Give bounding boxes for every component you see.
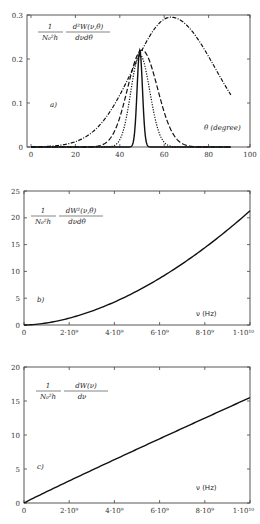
y-tick-label: 5	[16, 295, 20, 303]
panel-c-spectral: 0510152002·10⁹4·10⁹6·10⁹8·10⁹1·10¹⁰1N₀²h…	[0, 350, 260, 524]
x-tick-label: 0	[22, 329, 26, 337]
y-axis-formula: 1N₀²hdW(ν)dν	[36, 382, 108, 401]
y-tick-label: 0	[16, 322, 20, 330]
x-tick-label: 80	[204, 151, 213, 159]
panel-label: c)	[37, 463, 44, 471]
y-tick-label: 25	[11, 188, 20, 196]
y-tick-label: 10	[11, 432, 20, 440]
x-tick-label: 2·10⁹	[60, 329, 79, 337]
x-tick-label: 8·10⁹	[196, 507, 215, 515]
x-tick-label: 100	[243, 151, 256, 159]
x-tick-label: 4·10⁹	[105, 329, 124, 337]
svg-text:N₀²h: N₀²h	[41, 34, 58, 42]
x-tick-label: 1·10¹⁰	[233, 507, 254, 515]
svg-text:1: 1	[41, 207, 45, 215]
y-tick-label: 15	[11, 398, 20, 406]
x-axis-label: ν (Hz)	[196, 484, 217, 492]
x-tick-label: 0	[22, 507, 26, 515]
x-tick-label: 1·10¹⁰	[233, 329, 254, 337]
x-tick-label: 6·10⁹	[150, 507, 169, 515]
svg-text:dνdθ: dνdθ	[68, 218, 86, 226]
svg-text:N₀²h: N₀²h	[39, 393, 56, 401]
x-axis-label: θ (degree)	[204, 124, 241, 132]
svg-text:dW(ν): dW(ν)	[75, 382, 97, 390]
x-tick-label: 6·10⁹	[150, 329, 169, 337]
y-tick-label: 20	[11, 214, 20, 222]
y-axis-formula: 1N₀²hdW²(ν,θ)dνdθ	[31, 207, 103, 226]
chart-c: 0510152002·10⁹4·10⁹6·10⁹8·10⁹1·10¹⁰1N₀²h…	[0, 350, 260, 524]
x-tick-label: 60	[160, 151, 169, 159]
x-tick-label: 8·10⁹	[196, 329, 215, 337]
series-dashed-line	[31, 50, 231, 147]
panel-label: a)	[50, 101, 57, 109]
series-solid-line	[24, 211, 250, 325]
svg-text:1: 1	[46, 382, 50, 390]
x-tick-label: 0	[29, 151, 33, 159]
y-axis-formula: 1N₀²hd²W(ν,θ)dνdθ	[38, 23, 110, 42]
panel-label: b)	[37, 296, 44, 304]
y-tick-label: 0	[16, 500, 20, 508]
svg-text:N₀²h: N₀²h	[34, 218, 51, 226]
series-dotted-line	[31, 55, 231, 147]
panel-a-angular-distribution: 00.10.20.30204060801001N₀²hd²W(ν,θ)dνdθa…	[0, 0, 260, 170]
x-axis-label: ν (Hz)	[196, 310, 217, 318]
y-tick-label: 15	[11, 241, 20, 249]
plot-frame	[24, 367, 250, 503]
svg-text:dν: dν	[78, 393, 87, 401]
x-tick-label: 2·10⁹	[60, 507, 79, 515]
y-tick-label: 10	[11, 268, 20, 276]
plot-frame	[24, 191, 250, 325]
y-tick-label: 0	[19, 144, 23, 152]
svg-text:dW²(ν,θ): dW²(ν,θ)	[66, 207, 97, 215]
chart-b: 051015202502·10⁹4·10⁹6·10⁹8·10⁹1·10¹⁰1N₀…	[0, 170, 260, 350]
y-tick-label: 0.2	[12, 56, 23, 64]
series-solid-line	[31, 50, 231, 147]
svg-text:d²W(ν,θ): d²W(ν,θ)	[73, 23, 104, 31]
series-dashdot-line	[31, 17, 231, 147]
svg-text:1: 1	[48, 23, 52, 31]
y-tick-label: 0.1	[12, 100, 23, 108]
svg-text:dνdθ: dνdθ	[75, 34, 93, 42]
y-tick-label: 0.3	[12, 12, 23, 20]
panel-b-spectral-angular: 051015202502·10⁹4·10⁹6·10⁹8·10⁹1·10¹⁰1N₀…	[0, 170, 260, 350]
x-tick-label: 4·10⁹	[105, 507, 124, 515]
x-tick-label: 20	[71, 151, 80, 159]
chart-a: 00.10.20.30204060801001N₀²hd²W(ν,θ)dνdθa…	[0, 0, 260, 170]
y-tick-label: 20	[11, 364, 20, 372]
x-tick-label: 40	[115, 151, 124, 159]
y-tick-label: 5	[16, 466, 20, 474]
